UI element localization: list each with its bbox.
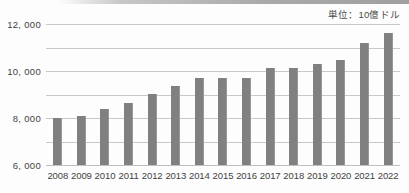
bar-2012[interactable] — [148, 94, 157, 165]
bar-chart-figure: 単位：10億ドル 02, 0004, 0006, 0008, 00010, 00… — [0, 0, 409, 193]
x-axis-tick-label-2018: 2018 — [282, 165, 306, 191]
bar-2021[interactable] — [360, 43, 369, 165]
bar-slot — [306, 24, 330, 165]
x-axis-tick-label-2011: 2011 — [117, 165, 141, 191]
bar-slot — [164, 24, 188, 165]
x-axis-tick-label-2009: 2009 — [70, 165, 94, 191]
y-axis-tick-label: 12, 000 — [7, 19, 41, 30]
x-axis-tick-label-2015: 2015 — [211, 165, 235, 191]
bar-slot — [235, 24, 259, 165]
y-axis-tick-label: 8, 000 — [13, 113, 41, 124]
x-axis-tick-label-2022: 2022 — [376, 165, 400, 191]
bar-2019[interactable] — [313, 64, 322, 165]
bar-2013[interactable] — [171, 86, 180, 165]
bar-slot — [140, 24, 164, 165]
bars-group — [46, 24, 400, 165]
y-axis-tick-label: 10, 000 — [7, 66, 41, 77]
x-axis-tick-labels: 2008200920102011201220132014201520162017… — [46, 165, 400, 191]
unit-label: 単位：10億ドル — [328, 7, 400, 21]
y-axis-tick-label: 6, 000 — [13, 160, 41, 171]
bar-slot — [70, 24, 94, 165]
bar-2009[interactable] — [77, 116, 86, 165]
plot-area: 02, 0004, 0006, 0008, 00010, 00012, 000 — [46, 24, 400, 165]
bar-2011[interactable] — [124, 103, 133, 165]
bar-slot — [329, 24, 353, 165]
x-axis-tick-label-2008: 2008 — [46, 165, 70, 191]
x-axis-tick-label-2010: 2010 — [93, 165, 117, 191]
scan-artifact-strip — [58, 0, 409, 4]
bar-slot — [117, 24, 141, 165]
bar-slot — [211, 24, 235, 165]
bar-slot — [46, 24, 70, 165]
bar-2022[interactable] — [384, 33, 393, 165]
x-axis-tick-label-2014: 2014 — [188, 165, 212, 191]
bar-2008[interactable] — [53, 118, 62, 165]
x-axis-tick-label-2021: 2021 — [353, 165, 377, 191]
bar-2018[interactable] — [289, 68, 298, 165]
bar-2010[interactable] — [100, 109, 109, 165]
x-axis-tick-label-2013: 2013 — [164, 165, 188, 191]
bar-slot — [258, 24, 282, 165]
x-axis-tick-label-2020: 2020 — [329, 165, 353, 191]
bar-slot — [353, 24, 377, 165]
bar-slot — [282, 24, 306, 165]
bar-slot — [93, 24, 117, 165]
x-axis-tick-label-2016: 2016 — [235, 165, 259, 191]
x-axis-tick-label-2019: 2019 — [306, 165, 330, 191]
bar-2014[interactable] — [195, 78, 204, 165]
bar-slot — [376, 24, 400, 165]
x-axis-tick-label-2012: 2012 — [140, 165, 164, 191]
bar-2015[interactable] — [218, 78, 227, 165]
bar-2016[interactable] — [242, 78, 251, 165]
bar-2017[interactable] — [266, 68, 275, 165]
x-axis-tick-label-2017: 2017 — [258, 165, 282, 191]
bar-2020[interactable] — [336, 60, 345, 165]
bar-slot — [188, 24, 212, 165]
